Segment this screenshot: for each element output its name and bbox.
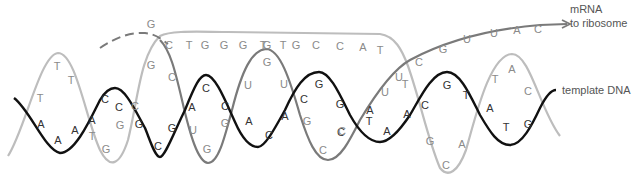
base-u: U [381,86,389,98]
mrna-label-line1: mRNA [570,3,603,15]
base-g: G [116,119,125,131]
base-g: G [201,39,210,51]
base-c: C [415,56,423,68]
base-c: C [338,125,346,137]
base-c: C [312,39,320,51]
base-a: A [403,108,411,120]
base-g: G [168,122,177,134]
base-c: C [442,159,450,171]
base-a: A [54,134,62,146]
base-c: C [165,39,173,51]
base-a: A [281,110,289,122]
base-a: A [88,114,96,126]
base-g: G [524,118,533,130]
base-t: T [503,121,510,133]
base-a: A [37,118,45,130]
coding-dna-strand-top [228,32,560,173]
base-g: G [315,78,324,90]
base-a: A [513,24,521,36]
base-t: T [492,73,499,85]
base-g: G [263,56,272,68]
coding-right-bases: TACGCA [426,63,532,171]
base-g: G [203,143,212,155]
transcription-diagram: TTTTGGCGG AAAACCGCGACCACACGGCATAACGTATG … [0,0,640,191]
base-t: T [68,74,75,86]
base-a: A [458,138,466,150]
base-a: A [71,124,79,136]
base-c: C [101,93,109,105]
base-g: G [263,39,272,51]
base-t: T [280,39,287,51]
base-c: C [131,100,139,112]
template-dna-label: template DNA [562,84,631,96]
base-u: U [280,78,288,90]
base-a: A [508,63,516,75]
base-g: G [220,39,229,51]
base-c: C [524,85,532,97]
base-g: G [443,79,452,91]
base-c: C [421,99,429,111]
base-u: U [189,124,197,136]
base-t: T [89,130,96,142]
mrna-label-line2: to ribosome [570,17,627,29]
base-g: G [303,115,312,127]
base-t: T [402,78,409,90]
base-c: C [115,101,123,113]
base-t: T [366,115,373,127]
base-g: G [426,135,435,147]
dashed-upstream-strand [100,33,168,48]
base-c: C [300,93,308,105]
base-t: T [186,39,193,51]
base-a: A [486,102,494,114]
base-c: C [154,140,162,152]
base-a: A [188,101,196,113]
base-g: G [102,143,111,155]
base-t: T [54,60,61,72]
base-c: C [221,100,229,112]
base-g: G [292,39,301,51]
base-u: U [463,33,471,45]
base-c: C [319,144,327,156]
base-a: A [245,115,253,127]
base-t: T [463,89,470,101]
base-c: C [534,23,542,35]
base-g: G [439,43,448,55]
base-a: A [383,125,391,137]
base-u: U [490,27,498,39]
base-g: G [147,18,156,30]
base-t: T [37,92,44,104]
base-c: C [265,129,273,141]
base-c: C [336,40,344,52]
base-g: G [221,117,230,129]
base-g: G [239,39,248,51]
base-t: T [377,44,384,56]
base-u: U [244,79,252,91]
base-g: G [135,118,144,130]
base-a: A [359,41,367,53]
base-c: C [202,82,210,94]
base-g: G [336,98,345,110]
base-g: G [147,59,156,71]
base-c: C [168,71,176,83]
